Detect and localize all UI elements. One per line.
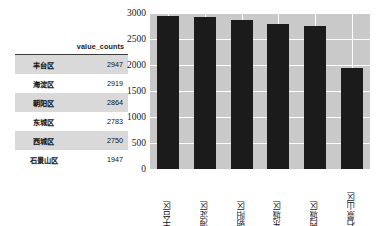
y-axis-tick-label: 500 [132, 138, 150, 148]
value-counts-table: value_counts 丰台区 2947 海淀区 2919 朝阳区 2864 … [15, 42, 128, 169]
table-row: 丰台区 2947 [15, 55, 128, 75]
x-axis-tick-label: 西城区 [309, 171, 321, 226]
bar [231, 20, 253, 169]
y-axis-tick-label: 1000 [127, 112, 150, 122]
bar-series [150, 13, 370, 169]
row-value: 2864 [72, 93, 129, 112]
table-row: 朝阳区 2864 [15, 93, 128, 112]
x-label-slot: 朝阳区 [231, 171, 253, 226]
x-axis-tick-label: 朝阳区 [236, 171, 248, 226]
table-row: 西城区 2750 [15, 131, 128, 150]
bar [304, 26, 326, 169]
table-header-row: value_counts [15, 42, 128, 55]
row-index-label: 西城区 [15, 131, 72, 150]
y-axis-tick-label: 2000 [127, 60, 150, 70]
bar [341, 68, 363, 169]
row-value: 2947 [72, 55, 129, 75]
row-value: 2919 [72, 74, 129, 93]
table-row: 东城区 2783 [15, 112, 128, 131]
dataframe: value_counts 丰台区 2947 海淀区 2919 朝阳区 2864 … [15, 42, 128, 169]
x-label-slot: 石景山区 [341, 171, 363, 226]
y-axis-tick-label: 3000 [127, 8, 150, 18]
x-axis-tick-label: 丰台区 [162, 171, 174, 226]
x-axis-labels: 丰台区海淀区朝阳区东城区西城区石景山区 [150, 171, 370, 226]
plot-area: 050010001500200025003000 [150, 13, 370, 169]
table-head: value_counts [15, 42, 128, 55]
bar [157, 16, 179, 169]
row-value: 1947 [72, 150, 129, 169]
row-index-label: 朝阳区 [15, 93, 72, 112]
table-body: 丰台区 2947 海淀区 2919 朝阳区 2864 东城区 2783 西城区 [15, 55, 128, 170]
table-column-header-value-counts: value_counts [72, 42, 129, 55]
row-index-label: 石景山区 [15, 150, 72, 169]
x-axis-tick-label: 海淀区 [199, 171, 211, 226]
bar-chart: 050010001500200025003000 丰台区海淀区朝阳区东城区西城区… [128, 10, 378, 220]
row-value: 2783 [72, 112, 129, 131]
row-index-label: 东城区 [15, 112, 72, 131]
table-row: 石景山区 1947 [15, 150, 128, 169]
y-axis-tick-label: 2500 [127, 34, 150, 44]
x-label-slot: 海淀区 [194, 171, 216, 226]
x-label-slot: 东城区 [267, 171, 289, 226]
row-value: 2750 [72, 131, 129, 150]
row-index-label: 海淀区 [15, 74, 72, 93]
y-axis-tick-label: 1500 [127, 86, 150, 96]
bar [194, 17, 216, 169]
figure-container: value_counts 丰台区 2947 海淀区 2919 朝阳区 2864 … [0, 0, 382, 226]
x-axis-tick-label: 东城区 [272, 171, 284, 226]
x-axis-tick-label: 石景山区 [346, 171, 358, 226]
x-label-slot: 西城区 [304, 171, 326, 226]
x-label-slot: 丰台区 [157, 171, 179, 226]
y-axis-tick-label: 0 [141, 164, 150, 174]
bar [267, 24, 289, 169]
table-index-header [15, 42, 72, 55]
table-row: 海淀区 2919 [15, 74, 128, 93]
row-index-label: 丰台区 [15, 55, 72, 75]
